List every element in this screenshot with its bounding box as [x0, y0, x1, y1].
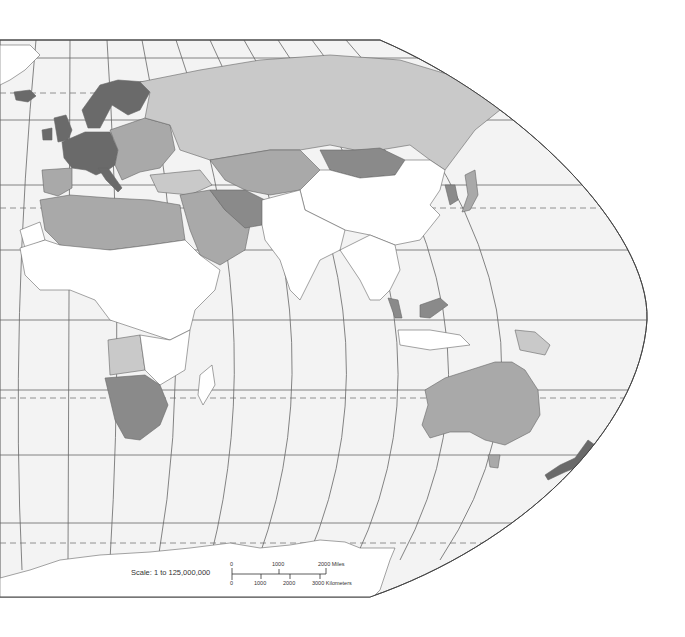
region-ireland — [42, 128, 52, 140]
scale-miles-tick-1000: 1000 — [272, 561, 284, 567]
scale-ratio-label: Scale: 1 to 125,000,000 — [131, 568, 210, 577]
scale-km-tick-0: 0 — [230, 580, 233, 586]
map-frame — [0, 0, 685, 637]
region-north-africa — [40, 195, 185, 250]
region-tasmania — [488, 455, 500, 468]
scale-km-tick-2000: 2000 — [283, 580, 295, 586]
scale-miles-tick-0: 0 — [230, 561, 233, 567]
region-angola — [108, 335, 145, 375]
world-map — [0, 0, 685, 637]
scale-miles-tick-2000: 2000 Miles — [318, 561, 345, 567]
scale-km-tick-1000: 1000 — [254, 580, 266, 586]
scale-km-tick-3000: 3000 Kilometers — [312, 580, 352, 586]
